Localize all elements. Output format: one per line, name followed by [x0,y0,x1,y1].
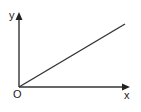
origin-label: O [13,89,22,100]
y-axis-label: y [9,10,15,21]
y-axis-arrow-icon [16,12,23,20]
coordinate-diagram: y O x [0,0,141,112]
x-axis-label: x [124,90,130,101]
proportional-line [19,24,125,87]
